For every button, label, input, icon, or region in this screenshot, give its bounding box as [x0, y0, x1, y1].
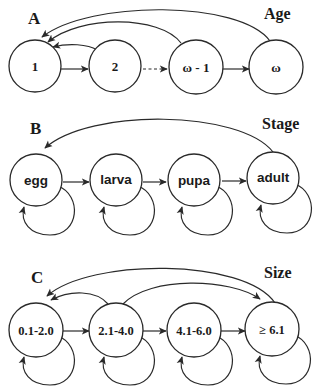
edge-size2-to-size4: [123, 283, 260, 304]
node-size-2-1-4-0: 2.1-4.0: [89, 303, 143, 357]
node-size-4-1-6-0: 4.1-6.0: [167, 303, 221, 357]
node-age-omega-minus-1: ω - 1: [169, 40, 223, 94]
node-stage-egg: egg: [10, 154, 62, 206]
node-label: ω - 1: [183, 60, 210, 75]
panel-title-size: Size: [264, 264, 292, 281]
node-stage-larva: larva: [90, 154, 142, 206]
node-label: 0.1-2.0: [18, 324, 53, 338]
panel-letter-c: C: [31, 268, 43, 287]
panel-age: A Age 1 2 ω - 1 ω: [9, 5, 303, 94]
panel-letter-a: A: [28, 9, 41, 28]
panel-title-age: Age: [264, 5, 291, 23]
node-label: ≥ 6.1: [259, 323, 285, 337]
node-label: larva: [100, 172, 132, 187]
node-label: egg: [24, 173, 48, 188]
node-age-omega: ω: [249, 40, 303, 94]
node-stage-pupa: pupa: [168, 154, 220, 206]
node-size-0-1-2-0: 0.1-2.0: [9, 303, 63, 357]
edge-size2-to-size1: [51, 293, 108, 304]
edge-adult-to-egg: [45, 119, 273, 152]
panel-size: C Size 0.1-2.0 2.1-4.0 4.1-6.0 ≥ 6.: [9, 264, 310, 385]
edge-2-to-1: [53, 45, 97, 50]
node-label: 4.1-6.0: [176, 324, 211, 338]
node-label: 2: [112, 59, 119, 74]
node-size-gte-6-1: ≥ 6.1: [245, 302, 299, 356]
node-label: 1: [32, 59, 39, 74]
panel-stage: B Stage egg larva pupa adult: [10, 115, 311, 235]
panel-title-stage: Stage: [262, 115, 299, 133]
edge-omega-to-1: [42, 10, 270, 41]
node-label: pupa: [178, 173, 211, 188]
node-label: 2.1-4.0: [98, 324, 133, 338]
node-age-2: 2: [89, 40, 141, 92]
node-stage-adult: adult: [247, 152, 299, 204]
node-label: ω: [271, 60, 281, 75]
node-age-1: 1: [9, 40, 61, 92]
panel-letter-b: B: [30, 119, 41, 138]
node-label: adult: [257, 170, 290, 185]
life-cycle-diagram: A Age 1 2 ω - 1 ω B Stage: [0, 0, 318, 391]
